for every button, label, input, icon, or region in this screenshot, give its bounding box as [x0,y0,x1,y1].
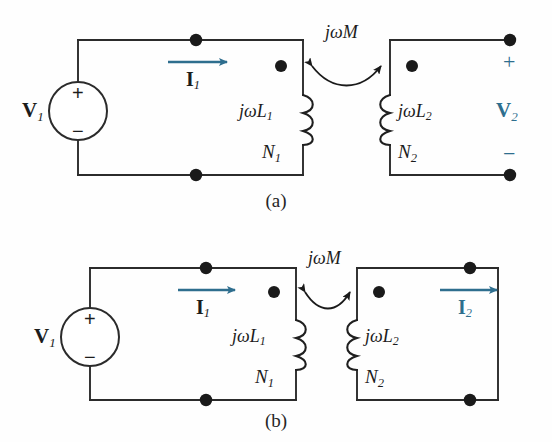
caption-panel-b: (b) [226,410,326,432]
node-dot [200,262,212,274]
terminal-dot-negative-a [504,169,516,181]
mutual-inductance-label-b: jωM [308,248,341,269]
secondary-coil-b [347,320,357,370]
figure-canvas: V1 + − I1 jωL1 N1 jωM jωL2 N2 + V2 − (a)… [0,0,552,442]
output-voltage-label-v2-a: V2 [496,98,518,125]
source-minus-sign-a: − [72,121,84,141]
turns-label-n1-a: N1 [262,141,281,166]
polarity-dot-secondary-b [373,286,385,298]
node-dot [464,394,476,406]
source-label-v1-a: V1 [22,98,44,125]
turns-label-n1-b: N1 [255,366,274,391]
panel-b-artwork [61,262,498,406]
polarity-dot-secondary-a [406,60,418,72]
current-label-i2-b: I2 [458,296,472,321]
terminal-dot-positive-a [504,34,516,46]
source-minus-sign-b: − [84,347,96,367]
mutual-coupling-arc-a [312,66,381,86]
current-label-i1-a: I1 [186,68,200,93]
primary-coil-b [296,320,306,370]
impedance-label-jwl1-b: jωL1 [232,326,266,349]
node-dot [190,34,202,46]
mutual-inductance-label-a: jωM [325,22,358,43]
turns-label-n2-b: N2 [365,366,384,391]
impedance-label-jwl1-a: jωL1 [239,101,273,124]
polarity-dot-primary-b [268,286,280,298]
secondary-coil-a [380,95,390,145]
node-dot [200,394,212,406]
source-plus-sign-a: + [72,83,84,103]
panel-a-artwork [49,34,516,181]
turns-label-n2-a: N2 [398,141,417,166]
output-minus-sign-a: − [503,143,515,165]
primary-coil-a [303,95,313,145]
caption-panel-a: (a) [226,190,326,212]
node-dot [464,262,476,274]
polarity-dot-primary-a [275,60,287,72]
impedance-label-jwl2-a: jωL2 [398,101,432,124]
source-plus-sign-b: + [84,309,96,329]
output-plus-sign-a: + [503,51,515,73]
current-label-i1-b: I1 [196,296,210,321]
source-label-v1-b: V1 [34,324,56,351]
mutual-coupling-arc-b [305,292,350,309]
impedance-label-jwl2-b: jωL2 [365,326,399,349]
node-dot [190,169,202,181]
circuit-schematic-svg [0,0,552,442]
